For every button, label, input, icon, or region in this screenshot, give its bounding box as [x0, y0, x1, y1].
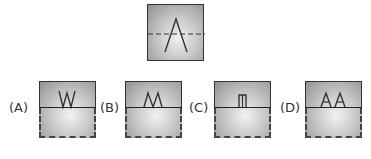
- w-shape-icon: [39, 81, 96, 138]
- letter-a-fold-icon: [148, 5, 205, 62]
- option-a-label: (A): [9, 100, 28, 115]
- option-d-figure[interactable]: [305, 81, 362, 138]
- option-c-figure[interactable]: [214, 81, 271, 138]
- m-shape-icon: [125, 81, 182, 138]
- question-figure: [147, 4, 204, 61]
- pi-shape-icon: [214, 81, 271, 138]
- option-b-label: (B): [100, 100, 119, 115]
- option-d-label: (D): [280, 100, 300, 115]
- option-a-figure[interactable]: [39, 81, 96, 138]
- double-a-shape-icon: [305, 81, 362, 138]
- option-c-label: (C): [189, 100, 208, 115]
- option-b-figure[interactable]: [125, 81, 182, 138]
